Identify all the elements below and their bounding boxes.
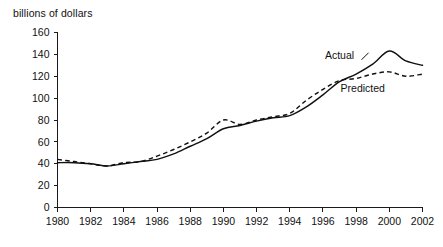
chart-container: billions of dollars 02040608010012014016…: [0, 0, 443, 247]
x-tick-label: 1980: [46, 215, 70, 227]
x-tick-label: 2002: [411, 215, 435, 227]
y-tick-label: 160: [32, 26, 50, 38]
y-axis-ticks: [54, 33, 58, 208]
series-label-leader-actual: [362, 53, 369, 60]
data-series-group: [58, 51, 423, 166]
x-axis-tick-labels: 1980198219841986198819901992199419961998…: [46, 215, 435, 227]
y-tick-label: 0: [44, 201, 50, 213]
x-tick-label: 1986: [145, 215, 169, 227]
series-annotations: Actual Predicted: [325, 49, 385, 94]
x-tick-label: 1996: [311, 215, 335, 227]
y-axis: 020406080100120140160: [32, 26, 58, 213]
x-axis-ticks: [58, 208, 423, 212]
x-tick-label: 1998: [344, 215, 368, 227]
x-tick-label: 1994: [278, 215, 302, 227]
y-tick-label: 20: [38, 179, 50, 191]
y-tick-label: 80: [38, 114, 50, 126]
x-tick-label: 2000: [378, 215, 402, 227]
y-tick-label: 40: [38, 157, 50, 169]
y-tick-label: 120: [32, 70, 50, 82]
x-tick-label: 1990: [212, 215, 236, 227]
y-tick-label: 60: [38, 136, 50, 148]
series-label-actual: Actual: [325, 49, 354, 61]
series-label-predicted: Predicted: [341, 82, 386, 94]
x-axis: 1980198219841986198819901992199419961998…: [46, 208, 435, 227]
x-tick-label: 1982: [79, 215, 103, 227]
y-tick-label: 140: [32, 48, 50, 60]
y-axis-tick-labels: 020406080100120140160: [32, 26, 50, 213]
y-tick-label: 100: [32, 92, 50, 104]
line-chart-plot: 020406080100120140160 198019821984198619…: [0, 0, 443, 247]
x-tick-label: 1988: [179, 215, 203, 227]
x-tick-label: 1984: [112, 215, 136, 227]
series-line-actual: [58, 51, 423, 166]
x-tick-label: 1992: [245, 215, 269, 227]
